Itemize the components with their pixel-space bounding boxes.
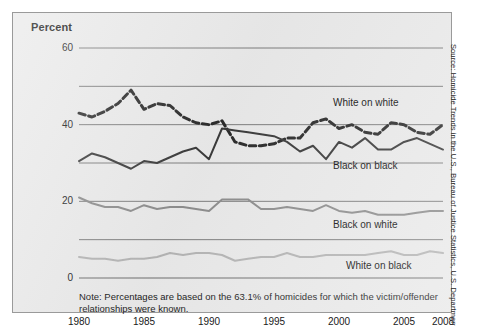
chart-note: Note: Percentages are based on the 63.1%… [79, 291, 439, 315]
series-label-black-on-white: Black on white [333, 219, 397, 230]
series-line-black-on-white [79, 198, 443, 215]
source-citation: Source: Homicide Trends in the U.S., Bur… [449, 44, 458, 314]
series-label-black-on-black: Black on black [333, 160, 397, 171]
x-tick-2000: 2000 [319, 316, 359, 326]
figure-panel: Percent 0204060 198019851990199520002005… [12, 12, 452, 313]
chart-screenshot: Percent 0204060 198019851990199520002005… [0, 0, 491, 326]
series-label-white-on-white: White on white [333, 97, 399, 108]
y-tick-40: 40 [47, 119, 73, 130]
y-tick-0: 0 [47, 272, 73, 283]
x-tick-1985: 1985 [124, 316, 164, 326]
x-tick-1980: 1980 [59, 316, 99, 326]
series-paths [79, 90, 443, 261]
y-axis-title: Percent [31, 21, 72, 33]
x-tick-2005: 2005 [384, 316, 424, 326]
series-label-white-on-black: White on black [346, 260, 412, 271]
x-tick-1995: 1995 [254, 316, 294, 326]
y-tick-60: 60 [47, 42, 73, 53]
x-tick-1990: 1990 [189, 316, 229, 326]
y-tick-20: 20 [47, 195, 73, 206]
plot-area: 0204060 1980198519901995200020052008 Whi… [79, 48, 443, 278]
